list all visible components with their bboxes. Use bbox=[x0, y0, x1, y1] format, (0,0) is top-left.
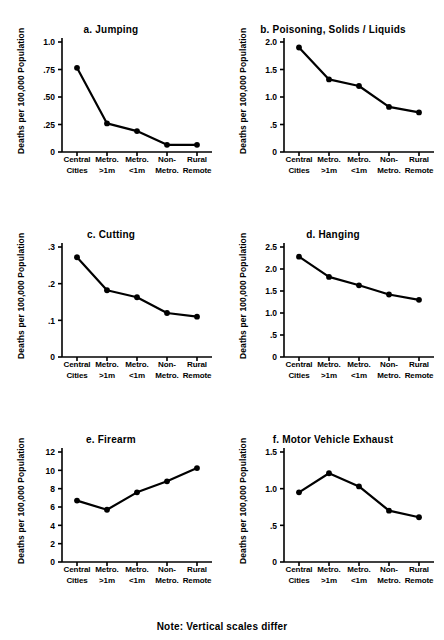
x-tick-label-e-4: RuralRemote bbox=[182, 565, 212, 586]
data-point-d-2 bbox=[356, 282, 362, 288]
data-line-b bbox=[299, 48, 419, 113]
x-tick-label-c-0: CentralCities bbox=[62, 360, 92, 381]
y-tick-label-f-0: 0 bbox=[272, 557, 277, 567]
data-point-f-3 bbox=[386, 508, 392, 514]
data-point-b-3 bbox=[386, 104, 392, 110]
x-tick-label-line: Remote bbox=[404, 166, 434, 177]
x-tick-label-line: Remote bbox=[182, 576, 212, 587]
y-tick-label-e-4: 8 bbox=[50, 484, 55, 494]
x-tick-label-line: Central bbox=[62, 360, 92, 371]
y-tick-label-e-5: 10 bbox=[46, 466, 56, 476]
data-point-d-1 bbox=[326, 274, 332, 280]
x-tick-label-f-2: Metro.<1m bbox=[344, 565, 374, 586]
x-axis-labels-e: CentralCitiesMetro.>1mMetro.<1mNon-Metro… bbox=[62, 565, 212, 586]
x-tick-label-line: Remote bbox=[404, 371, 434, 382]
x-tick-label-line: Metro. bbox=[344, 360, 374, 371]
x-tick-label-line: Non- bbox=[152, 155, 182, 166]
x-tick-label-line: Cities bbox=[62, 166, 92, 177]
x-tick-label-line: Metro. bbox=[344, 155, 374, 166]
x-tick-label-line: Remote bbox=[182, 371, 212, 382]
y-tick-label-c-1: .1 bbox=[48, 316, 55, 326]
x-tick-label-c-2: Metro.<1m bbox=[122, 360, 152, 381]
x-axis-labels-d: CentralCitiesMetro.>1mMetro.<1mNon-Metro… bbox=[284, 360, 434, 381]
data-point-c-4 bbox=[194, 314, 200, 320]
data-line-c bbox=[77, 257, 197, 316]
chart-panel-c: c. CuttingDeaths per 100,000 Population0… bbox=[0, 205, 222, 410]
x-tick-label-line: Cities bbox=[284, 166, 314, 177]
y-tick-label-f-1: .5 bbox=[270, 521, 277, 531]
x-tick-label-line: Metro. bbox=[314, 565, 344, 576]
x-tick-label-line: Non- bbox=[152, 360, 182, 371]
data-point-a-3 bbox=[164, 142, 170, 148]
x-tick-label-line: Non- bbox=[374, 360, 404, 371]
x-tick-label-a-2: Metro.<1m bbox=[122, 155, 152, 176]
x-tick-label-line: <1m bbox=[344, 576, 374, 587]
data-point-f-0 bbox=[296, 489, 302, 495]
x-tick-label-line: Rural bbox=[404, 155, 434, 166]
x-tick-label-line: Metro. bbox=[92, 565, 122, 576]
x-tick-label-line: Metro. bbox=[122, 155, 152, 166]
data-point-e-0 bbox=[74, 498, 80, 504]
y-tick-label-e-1: 2 bbox=[50, 539, 55, 549]
figure-suicide-methods-by-urbanization: a. JumpingDeaths per 100,000 Population0… bbox=[0, 0, 444, 640]
data-point-a-1 bbox=[104, 121, 110, 127]
y-tick-label-c-3: .3 bbox=[48, 242, 55, 252]
y-tick-label-a-0: 0 bbox=[50, 147, 55, 157]
chart-panel-a: a. JumpingDeaths per 100,000 Population0… bbox=[0, 0, 222, 205]
y-tick-label-c-2: .2 bbox=[48, 279, 55, 289]
x-tick-label-line: Rural bbox=[182, 360, 212, 371]
x-tick-label-line: Metro. bbox=[374, 166, 404, 177]
x-axis-labels-c: CentralCitiesMetro.>1mMetro.<1mNon-Metro… bbox=[62, 360, 212, 381]
x-tick-label-line: Non- bbox=[374, 565, 404, 576]
x-tick-label-line: >1m bbox=[314, 371, 344, 382]
panel-grid: a. JumpingDeaths per 100,000 Population0… bbox=[0, 0, 444, 615]
x-tick-label-b-2: Metro.<1m bbox=[344, 155, 374, 176]
y-tick-label-e-2: 4 bbox=[50, 521, 55, 531]
y-tick-label-c-0: 0 bbox=[50, 352, 55, 362]
data-point-e-1 bbox=[104, 507, 110, 513]
x-tick-label-a-1: Metro.>1m bbox=[92, 155, 122, 176]
x-tick-label-line: Central bbox=[62, 155, 92, 166]
y-tick-label-f-2: 1.0 bbox=[265, 484, 277, 494]
data-point-e-2 bbox=[134, 489, 140, 495]
x-tick-label-line: <1m bbox=[344, 371, 374, 382]
y-tick-label-d-1: .5 bbox=[270, 330, 277, 340]
data-point-e-4 bbox=[194, 465, 200, 471]
x-tick-label-line: Metro. bbox=[92, 155, 122, 166]
x-tick-label-line: >1m bbox=[314, 166, 344, 177]
data-point-b-2 bbox=[356, 83, 362, 89]
x-tick-label-line: Metro. bbox=[152, 166, 182, 177]
data-point-d-4 bbox=[416, 297, 422, 303]
y-tick-label-f-3: 1.5 bbox=[265, 447, 277, 457]
chart-panel-f: f. Motor Vehicle ExhaustDeaths per 100,0… bbox=[222, 410, 444, 615]
y-tick-label-a-1: .25 bbox=[43, 120, 55, 130]
data-point-c-2 bbox=[134, 294, 140, 300]
data-point-f-4 bbox=[416, 514, 422, 520]
x-tick-label-a-3: Non-Metro. bbox=[152, 155, 182, 176]
x-tick-label-line: <1m bbox=[122, 166, 152, 177]
data-point-c-3 bbox=[164, 310, 170, 316]
x-tick-label-line: <1m bbox=[344, 166, 374, 177]
y-tick-label-d-4: 2.0 bbox=[265, 264, 277, 274]
y-tick-label-b-0: 0 bbox=[272, 147, 277, 157]
x-tick-label-f-4: RuralRemote bbox=[404, 565, 434, 586]
y-tick-label-e-0: 0 bbox=[50, 557, 55, 567]
x-tick-label-line: Cities bbox=[284, 371, 314, 382]
x-tick-label-c-1: Metro.>1m bbox=[92, 360, 122, 381]
x-tick-label-line: Rural bbox=[182, 565, 212, 576]
x-tick-label-line: Metro. bbox=[314, 360, 344, 371]
x-tick-label-d-1: Metro.>1m bbox=[314, 360, 344, 381]
x-tick-label-d-3: Non-Metro. bbox=[374, 360, 404, 381]
data-line-f bbox=[299, 473, 419, 517]
data-point-b-4 bbox=[416, 110, 422, 116]
x-tick-label-a-4: RuralRemote bbox=[182, 155, 212, 176]
x-tick-label-line: Metro. bbox=[344, 565, 374, 576]
x-tick-label-line: Metro. bbox=[152, 576, 182, 587]
y-tick-label-d-2: 1.0 bbox=[265, 308, 277, 318]
data-point-a-0 bbox=[74, 65, 80, 71]
x-tick-label-line: Metro. bbox=[122, 360, 152, 371]
data-point-c-1 bbox=[104, 287, 110, 293]
chart-panel-d: d. HangingDeaths per 100,000 Population0… bbox=[222, 205, 444, 410]
x-tick-label-line: Remote bbox=[182, 166, 212, 177]
x-tick-label-line: Central bbox=[284, 360, 314, 371]
